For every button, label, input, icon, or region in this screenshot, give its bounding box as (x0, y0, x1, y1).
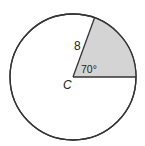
center-label: C (63, 78, 72, 92)
circle-sector-diagram: 8 70° C (0, 0, 145, 146)
radius-label: 8 (74, 39, 81, 53)
angle-label: 70° (81, 63, 97, 75)
